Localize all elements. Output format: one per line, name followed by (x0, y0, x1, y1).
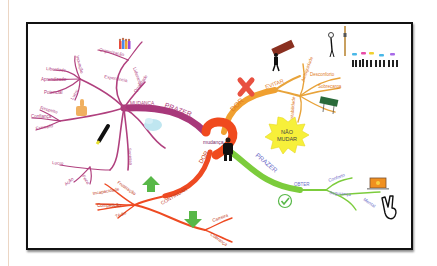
cloud-icon (144, 118, 162, 131)
label-conforto: Conforto (328, 172, 346, 183)
label-potencial: Potencial (44, 90, 63, 95)
label-desconforto: Desconforto (310, 72, 335, 77)
thumbs-up-icon (76, 99, 87, 116)
mindmap-canvas: PRAZER MUDANÇA Organização Experiência L… (0, 0, 437, 266)
label-aprendizado: Aprendizado (41, 77, 67, 82)
people-group-icon (119, 38, 131, 49)
label-ambiguidade: Ambiguidade (300, 55, 314, 82)
crowd-speech-icon (352, 52, 398, 67)
laptop-money-icon (367, 178, 389, 190)
highlighter-icon (97, 126, 108, 144)
label-competicao: Competição (97, 203, 122, 208)
x-mark-icon (240, 80, 252, 94)
center-label: mudança (203, 139, 224, 145)
label-obter: OBTER (294, 182, 310, 187)
label-tedio: Tédio (115, 210, 128, 219)
up-arrow-icon (142, 176, 160, 192)
label-carreira: Carreira (212, 213, 229, 223)
victory-hand-icon (382, 196, 396, 219)
label-sobrecarga: Sobrecarga (318, 84, 342, 89)
burst-line1: NÃO (281, 129, 294, 135)
labels-mudanca: PRAZER MUDANÇA Organização Experiência L… (31, 47, 193, 187)
label-mudanca-node: MUDANÇA (130, 101, 155, 106)
label-lucro: Lucro (52, 160, 64, 166)
label-confianca: Confiança (31, 114, 52, 119)
road-sign-icon (319, 96, 338, 114)
thinking-person-icon (329, 26, 347, 57)
label-exemplo: Exemplo (35, 123, 54, 131)
label-incapacidade: Incapacidade (92, 186, 120, 196)
label-seguranca: Segurança (329, 190, 352, 197)
branch-prazer-obter (228, 150, 380, 210)
label-acao: Ação (63, 176, 74, 187)
man-carrying-box-icon (271, 40, 294, 71)
label-mental: Mental (362, 197, 376, 209)
label-foco: Foco (81, 174, 91, 186)
nao-mudar-burst: NÃO MUDAR (265, 117, 309, 154)
label-liberdade: Liberdade (46, 66, 67, 73)
checkmark-icon (279, 195, 292, 208)
burst-line2: MUDAR (277, 136, 297, 142)
